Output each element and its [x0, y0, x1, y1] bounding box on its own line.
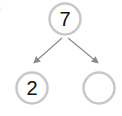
- item-label-fragment: ): [0, 0, 1, 16]
- arrow-right: [68, 38, 97, 62]
- part-circle-left: 2: [17, 73, 48, 104]
- arrow-left: [35, 38, 62, 62]
- whole-value: 7: [59, 8, 70, 30]
- whole-circle: 7: [50, 4, 81, 35]
- part-left-value: 2: [26, 77, 37, 99]
- part-circle-right[interactable]: [84, 73, 115, 104]
- number-bond-diagram: ) 7 2: [0, 0, 122, 116]
